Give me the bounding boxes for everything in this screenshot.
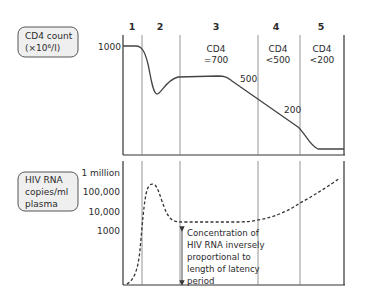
phase4-cd4-line2: <500 — [266, 55, 291, 65]
cd4-label-line2: (×10⁶/l) — [25, 43, 60, 53]
phase-5: 5 — [318, 21, 325, 32]
rna-tick-1000: 1000 — [97, 226, 120, 236]
note-line5: period — [187, 276, 214, 286]
cd4-chart: 1000 CD4 =700 CD4 <500 CD4 <200 500 200 — [98, 35, 345, 155]
rna-chart: 1 million 100,000 10,000 1000 Concentrat… — [81, 161, 345, 286]
phase5-cd4-line1: CD4 — [313, 44, 332, 54]
cd4-label-line1: CD4 count — [25, 31, 73, 41]
phase-1: 1 — [129, 21, 136, 32]
phase-2: 2 — [157, 21, 164, 32]
phase4-cd4-line1: CD4 — [269, 44, 288, 54]
rna-tick-100000: 100,000 — [83, 187, 120, 197]
phase3-cd4-line1: CD4 — [207, 44, 226, 54]
phase-3: 3 — [213, 21, 220, 32]
note-line3: proportional to — [187, 252, 251, 262]
cd4-label-box: CD4 count (×10⁶/l) — [18, 27, 78, 57]
rna-label-box: HIV RNA copies/ml plasma — [18, 172, 78, 211]
rna-tick-10000: 10,000 — [89, 207, 121, 217]
note-line1: Concentration of — [187, 228, 260, 238]
phase5-cd4-line2: <200 — [310, 55, 335, 65]
rna-label-line3: plasma — [25, 199, 58, 209]
note-line2: HIV RNA inversely — [187, 240, 265, 250]
note-line4: length of latency — [187, 264, 260, 274]
cd4-tick-1000: 1000 — [98, 42, 121, 52]
rna-tick-1million: 1 million — [81, 168, 120, 178]
cd4-point-200: 200 — [284, 105, 301, 115]
cd4-point-500: 500 — [240, 74, 257, 84]
rna-label-line1: HIV RNA — [25, 175, 63, 185]
phase-4: 4 — [273, 21, 280, 32]
rna-label-line2: copies/ml — [25, 187, 68, 197]
hiv-progression-diagram: CD4 count (×10⁶/l) HIV RNA copies/ml pla… — [0, 0, 365, 299]
phase-labels: 1 2 3 4 5 — [129, 21, 325, 32]
phase3-cd4-line2: =700 — [204, 55, 229, 65]
